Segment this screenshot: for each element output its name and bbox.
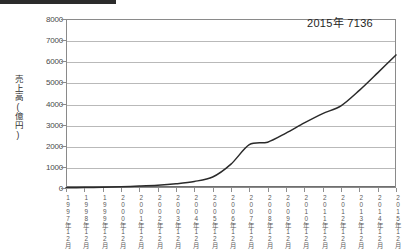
x-tick-2015年12月: 2015年12月 [392,193,401,249]
x-tickmark-2008年12月 [268,188,269,192]
x-tickmark-2011年12月 [323,188,324,192]
x-tick-2007年12月: 2007年12月 [245,193,254,249]
x-tickmark-1999年12月 [103,188,104,192]
x-tick-2002年12月: 2002年12月 [153,193,162,249]
x-tickmark-2001年12月 [139,188,140,192]
x-tick-2004年12月: 2004年12月 [190,193,199,249]
x-tickmark-2002年12月 [158,188,159,192]
x-tickmark-2005年12月 [213,188,214,192]
x-tick-2001年12月: 2001年12月 [135,193,144,249]
x-tick-2008年12月: 2008年12月 [263,193,272,249]
x-tick-2012年12月: 2012年12月 [337,193,346,249]
x-tick-2005年12月: 2005年12月 [208,193,217,249]
x-tick-2006年12月: 2006年12月 [227,193,236,249]
x-tick-1999年12月: 1999年12月 [98,193,107,249]
x-tick-2013年12月: 2013年12月 [355,193,364,249]
x-tickmark-2010年12月 [304,188,305,192]
x-tickmark-2007年12月 [249,188,250,192]
annotation-2015-value: 2015年 7136 [307,14,373,30]
x-tickmark-2015年12月 [396,188,397,192]
x-tick-2009年12月: 2009年12月 [282,193,291,249]
x-tickmark-2014年12月 [378,188,379,192]
series-line-sales [66,55,396,188]
x-tick-1998年12月: 1998年12月 [80,193,89,249]
x-tickmark-1998年12月 [84,188,85,192]
x-tickmark-1997年12月 [66,188,67,192]
x-tick-2014年12月: 2014年12月 [373,193,382,249]
x-tick-1997年12月: 1997年12月 [62,193,71,249]
x-tick-2003年12月: 2003年12月 [172,193,181,249]
x-tickmark-2012年12月 [341,188,342,192]
x-tick-2000年12月: 2000年12月 [117,193,126,249]
x-tickmark-2009年12月 [286,188,287,192]
x-tickmark-2003年12月 [176,188,177,192]
x-tickmark-2000年12月 [121,188,122,192]
x-tick-2010年12月: 2010年12月 [300,193,309,249]
chart-root: 売上高(億円) 01000200030004000500060007000800… [0,0,412,252]
x-tick-2011年12月: 2011年12月 [318,193,327,249]
x-tickmark-2006年12月 [231,188,232,192]
x-tickmark-2013年12月 [359,188,360,192]
x-tickmark-2004年12月 [194,188,195,192]
